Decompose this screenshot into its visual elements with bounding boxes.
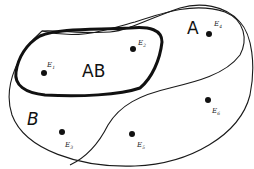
svg-text:E2: E2 [137,39,146,48]
svg-text:E4: E4 [213,20,222,29]
svg-text:E3: E3 [64,141,73,150]
svg-text:E5: E5 [136,141,145,150]
region-label-b: B [27,109,39,129]
venn-diagram: A AB B E1 E2 E3 E4 E5 E6 [0,0,254,169]
svg-text:E1: E1 [46,61,55,70]
region-label-a: A [187,18,199,38]
point-e3: E3 [59,129,73,150]
point-e5: E5 [129,131,145,150]
point-e1: E1 [41,61,55,76]
region-label-ab: AB [82,61,105,81]
point-e6: E6 [205,97,220,116]
point-e4: E4 [206,20,222,37]
svg-text:E6: E6 [211,107,220,116]
point-e2: E2 [130,39,146,52]
